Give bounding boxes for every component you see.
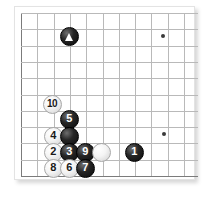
stone-move-number: 4 xyxy=(50,130,56,141)
stone-5[interactable]: 5 xyxy=(60,110,79,129)
stone-move-number: 3 xyxy=(66,146,72,157)
stone-7[interactable]: 7 xyxy=(76,159,95,178)
stone-move-number: 5 xyxy=(66,113,72,124)
stone-move-number: 2 xyxy=(50,146,56,157)
stone-move-number: 10 xyxy=(47,99,57,109)
grid-line-horizontal xyxy=(21,62,195,63)
stone-marked-triangle[interactable] xyxy=(60,27,79,46)
grid-line-horizontal xyxy=(21,29,195,30)
triangle-marker-icon xyxy=(65,33,73,41)
star-point-top-right xyxy=(161,34,165,38)
go-diagram: 10542391867 xyxy=(0,0,195,200)
board-grid: 10542391867 xyxy=(0,0,195,200)
grid-line-horizontal xyxy=(21,46,195,47)
stone-move-number: 9 xyxy=(82,146,88,157)
stone-move-number: 8 xyxy=(50,162,56,173)
star-point-bottom-right xyxy=(162,132,166,136)
stone-1[interactable]: 1 xyxy=(125,143,144,162)
stone-10[interactable]: 10 xyxy=(43,95,62,114)
stone-move-number: 1 xyxy=(131,146,137,157)
grid-line-horizontal xyxy=(21,78,195,79)
grid-line-horizontal xyxy=(21,13,195,14)
stone-move-number: 7 xyxy=(82,162,88,173)
stone-move-number: 6 xyxy=(66,162,72,173)
stone-white-unnumbered[interactable] xyxy=(92,143,111,162)
